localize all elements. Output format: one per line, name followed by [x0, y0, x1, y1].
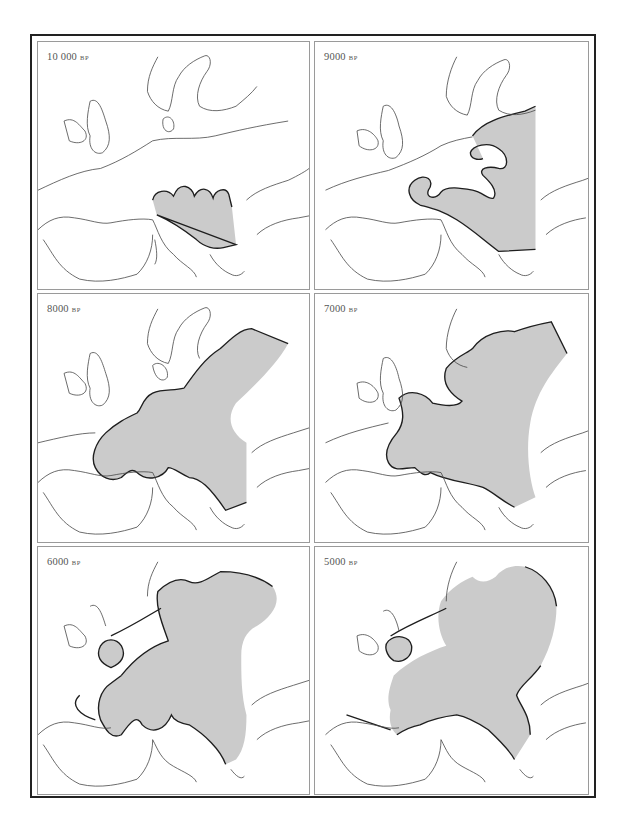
map-panel-9000-bp: 9000BP [314, 41, 589, 290]
map-panel-8000-bp: 8000BP [37, 293, 310, 543]
panel-label: 6000BP [47, 556, 81, 567]
map-panel-5000-bp: 5000BP [314, 546, 589, 795]
farming-extent-region [386, 322, 567, 508]
europe-map [38, 42, 309, 289]
panel-label: 8000BP [47, 303, 81, 314]
map-panel-7000-bp: 7000BP [314, 293, 589, 543]
europe-map [38, 547, 309, 794]
panel-label: 10 000BP [47, 51, 89, 62]
coastline [326, 57, 589, 281]
figure-frame: 10 000BP 9000BP [30, 34, 596, 798]
farming-extent-region [93, 329, 288, 511]
map-panel-10000-bp: 10 000BP [37, 41, 310, 290]
panel-label: 9000BP [324, 51, 358, 62]
farming-extent-region [98, 572, 276, 765]
coastline [38, 56, 309, 282]
europe-map [315, 294, 588, 542]
europe-map [315, 42, 588, 289]
farming-extent-region [386, 566, 557, 759]
europe-map [38, 294, 309, 542]
europe-map [315, 547, 588, 794]
panel-label: 7000BP [324, 303, 358, 314]
panel-label: 5000BP [324, 556, 358, 567]
map-panel-6000-bp: 6000BP [37, 546, 310, 795]
